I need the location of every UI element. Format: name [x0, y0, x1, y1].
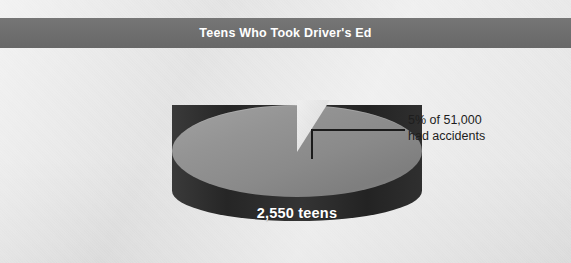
pie-chart: 2,550 teens 5% of 51,000 had accidents: [0, 48, 571, 263]
page-title: Teens Who Took Driver's Ed: [0, 18, 571, 48]
callout-leader-line-vertical: [311, 129, 313, 159]
callout-leader-line-horizontal: [311, 129, 405, 131]
chart-figure: Teens Who Took Driver's Ed 2,550 teens 5…: [0, 0, 571, 263]
pie-data-label: 2,550 teens: [197, 205, 397, 221]
callout-line-2: had accidents: [408, 128, 558, 144]
callout-line-1: 5% of 51,000: [408, 112, 558, 128]
chart-title-bar: Teens Who Took Driver's Ed: [0, 18, 571, 48]
callout-annotation: 5% of 51,000 had accidents: [408, 112, 558, 144]
